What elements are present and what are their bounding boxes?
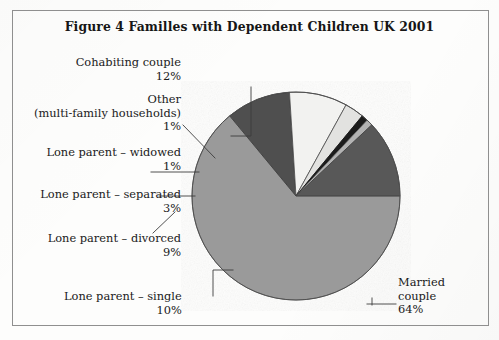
slice-label-text: Lone parent – widowed: [46, 146, 181, 160]
slice-label-lone-parent-single: Lone parent – single 10%: [64, 290, 182, 317]
slice-label-text-line2: couple: [398, 290, 445, 304]
slice-label-text: Cohabiting couple: [76, 56, 181, 70]
slice-label-value: 12%: [76, 70, 181, 84]
slice-label-cohabiting-couple: Cohabiting couple 12%: [76, 56, 181, 83]
slice-label-text-line1: Other: [34, 93, 181, 107]
figure-page: Figure 4 Familles with Dependent Childre…: [0, 0, 499, 340]
page-title: Figure 4 Familles with Dependent Childre…: [0, 19, 499, 34]
slice-label-value: 64%: [398, 303, 445, 317]
slice-label-text-line2: (multi-family households): [34, 107, 181, 121]
slice-label-lone-parent-separated: Lone parent – separated 3%: [40, 188, 181, 215]
slice-label-value: 3%: [40, 202, 181, 216]
slice-label-text: Lone parent – divorced: [48, 232, 181, 246]
slice-label-lone-parent-widowed: Lone parent – widowed 1%: [46, 146, 181, 173]
slice-label-other-multi-family: Other (multi-family households) 1%: [34, 93, 181, 134]
slice-label-lone-parent-divorced: Lone parent – divorced 9%: [48, 232, 181, 259]
slice-label-value: 9%: [48, 246, 181, 260]
slice-label-married-couple: Married couple 64%: [398, 276, 445, 317]
slice-label-text: Lone parent – separated: [40, 188, 181, 202]
slice-label-value: 1%: [46, 160, 181, 174]
slice-label-text: Lone parent – single: [64, 290, 182, 304]
slice-label-value: 1%: [34, 120, 181, 134]
slice-label-text-line1: Married: [398, 276, 445, 290]
slice-label-value: 10%: [64, 304, 182, 318]
